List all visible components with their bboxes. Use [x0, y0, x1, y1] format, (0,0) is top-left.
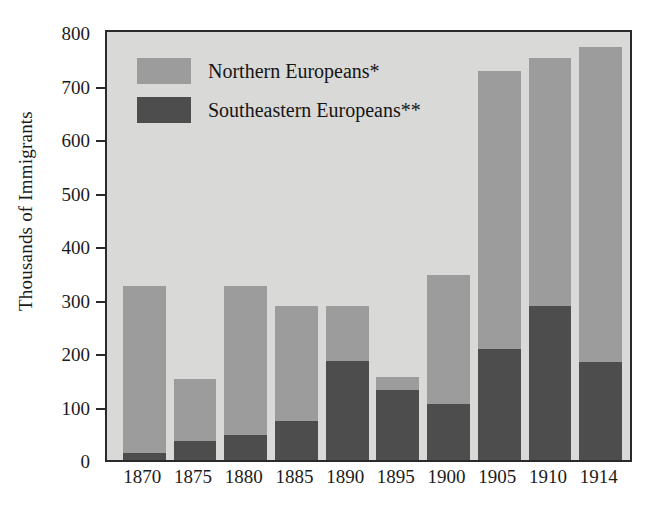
x-tick-label-1910: 1910 — [529, 466, 567, 488]
legend-item-northern: Northern Europeans* — [137, 58, 421, 84]
bar-1875 — [174, 379, 217, 460]
immigration-stacked-bar-chart: Thousands of Immigrants 0100200300400500… — [0, 0, 655, 518]
bar-segment-northern-1905 — [478, 71, 521, 350]
x-tick-label-1870: 1870 — [123, 466, 161, 488]
bar-segment-northern-1910 — [529, 58, 572, 306]
y-tick-mark-700 — [96, 87, 107, 89]
bar-1910 — [529, 58, 572, 460]
y-tick-mark-100 — [96, 408, 107, 410]
y-tick-label-700: 700 — [62, 77, 91, 99]
y-tick-label-800: 800 — [62, 23, 91, 45]
y-tick-mark-300 — [96, 301, 107, 303]
bar-segment-northern-1900 — [427, 275, 470, 403]
y-tick-label-600: 600 — [62, 130, 91, 152]
bar-segment-northern-1875 — [174, 379, 217, 441]
legend-swatch-southeastern — [137, 97, 191, 123]
bar-segment-northern-1914 — [579, 47, 622, 362]
y-tick-label-200: 200 — [62, 344, 91, 366]
bar-segment-southeastern-1890 — [326, 361, 369, 461]
y-tick-label-500: 500 — [62, 184, 91, 206]
x-tick-label-1875: 1875 — [174, 466, 212, 488]
y-tick-mark-400 — [96, 247, 107, 249]
bar-segment-southeastern-1905 — [478, 349, 521, 460]
bar-segment-northern-1890 — [326, 306, 369, 360]
bar-segment-northern-1870 — [123, 286, 166, 453]
bar-1890 — [326, 306, 369, 460]
bar-1900 — [427, 275, 470, 460]
bar-1870 — [123, 286, 166, 460]
bar-1885 — [275, 306, 318, 460]
legend-item-southeastern: Southeastern Europeans** — [137, 97, 421, 123]
x-tick-label-1890: 1890 — [326, 466, 364, 488]
chart-legend: Northern Europeans* Southeastern Europea… — [137, 58, 421, 136]
bar-1905 — [478, 71, 521, 460]
x-tick-label-1885: 1885 — [275, 466, 313, 488]
bar-segment-southeastern-1914 — [579, 362, 622, 460]
bar-1895 — [376, 377, 419, 460]
bar-segment-southeastern-1870 — [123, 453, 166, 460]
y-tick-label-400: 400 — [62, 237, 91, 259]
bar-1880 — [224, 286, 267, 460]
y-tick-label-100: 100 — [62, 398, 91, 420]
bar-1914 — [579, 47, 622, 460]
y-axis-title: Thousands of Immigrants — [15, 51, 37, 371]
bar-segment-southeastern-1895 — [376, 390, 419, 460]
bar-segment-northern-1895 — [376, 377, 419, 390]
y-tick-label-0: 0 — [81, 451, 91, 473]
bar-segment-southeastern-1875 — [174, 441, 217, 460]
x-tick-label-1914: 1914 — [580, 466, 618, 488]
x-tick-label-1895: 1895 — [377, 466, 415, 488]
y-tick-mark-200 — [96, 354, 107, 356]
bar-segment-southeastern-1910 — [529, 306, 572, 460]
y-tick-mark-500 — [96, 194, 107, 196]
legend-label-southeastern: Southeastern Europeans** — [208, 99, 421, 122]
bar-segment-northern-1880 — [224, 286, 267, 436]
legend-swatch-northern — [137, 58, 191, 84]
bar-segment-southeastern-1900 — [427, 404, 470, 460]
legend-label-northern: Northern Europeans* — [208, 60, 380, 83]
bar-segment-southeastern-1880 — [224, 435, 267, 460]
y-tick-label-300: 300 — [62, 291, 91, 313]
y-tick-mark-600 — [96, 140, 107, 142]
x-tick-label-1905: 1905 — [478, 466, 516, 488]
plot-area: 0100200300400500600700800 Northern Europ… — [105, 30, 632, 462]
x-tick-label-1900: 1900 — [428, 466, 466, 488]
bar-segment-northern-1885 — [275, 306, 318, 421]
x-tick-label-1880: 1880 — [225, 466, 263, 488]
bar-segment-southeastern-1885 — [275, 421, 318, 460]
